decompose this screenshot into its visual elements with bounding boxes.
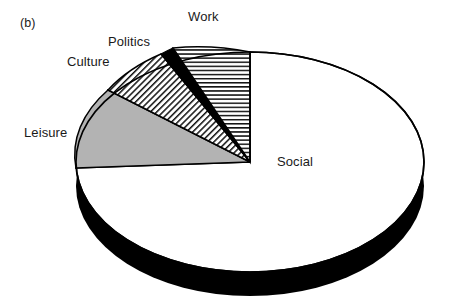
slice-label-social: Social bbox=[277, 155, 313, 168]
slice-label-leisure: Leisure bbox=[24, 126, 67, 139]
slice-label-work: Work bbox=[188, 10, 219, 23]
pie-chart-graphic bbox=[0, 0, 462, 306]
slice-label-politics: Politics bbox=[108, 35, 150, 48]
pie-chart-figure: (b) bbox=[0, 0, 462, 306]
slice-label-culture: Culture bbox=[67, 55, 110, 68]
